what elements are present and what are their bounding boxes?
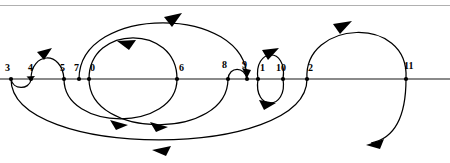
node-label-2: 2 — [308, 63, 313, 73]
arc-3-to-4-below — [11, 79, 31, 87]
node-dot-6 — [175, 77, 179, 81]
node-label-7: 7 — [74, 63, 79, 73]
arc-2-to-11-above — [307, 32, 406, 79]
arc-7-to-9-above — [79, 23, 247, 79]
node-dot-9 — [245, 77, 249, 81]
arrowhead-arc-6-to-0-above — [117, 40, 136, 50]
arrowhead-arc-2-to-11-above — [333, 21, 352, 34]
node-label-0: 0 — [90, 63, 95, 73]
node-label-5: 5 — [60, 63, 65, 73]
arrowhead-arc-10-to-1-below — [259, 100, 276, 110]
node-dot-2 — [305, 77, 309, 81]
node-label-4: 4 — [28, 63, 33, 73]
node-dot-7 — [77, 77, 81, 81]
arrowhead-arc-7-to-9-above — [164, 13, 182, 27]
arrowhead-arc-0-to-8-below — [150, 122, 168, 132]
arrowhead-arc-5-to-6-below — [110, 120, 128, 130]
node-label-1: 1 — [260, 63, 265, 73]
arc-layer — [11, 13, 406, 156]
node-label-3: 3 — [5, 63, 10, 73]
node-label-9: 9 — [242, 60, 247, 70]
node-dot-10 — [281, 77, 285, 81]
node-label-8: 8 — [222, 60, 227, 70]
arrowhead-arc-2-to-3-below — [152, 146, 171, 156]
arrowhead-arc-1-to-10-above — [262, 48, 279, 60]
node-dot-3 — [9, 77, 13, 81]
arc-5-to-6-below — [64, 79, 177, 119]
node-dot-11 — [404, 77, 408, 81]
node-dot-4 — [29, 77, 33, 81]
arc-10-to-1-below — [258, 79, 284, 103]
node-label-11: 11 — [404, 61, 413, 71]
arc-diagram-svg — [0, 0, 450, 163]
node-dot-8 — [226, 77, 230, 81]
arrowhead-arc-11-dangling — [366, 139, 384, 149]
node-label-6: 6 — [179, 63, 184, 73]
arc-diagram-canvas: 3 4 5 7 0 6 8 9 1 10 2 11 — [0, 0, 450, 163]
arc-11-dangling — [371, 79, 406, 143]
node-label-10: 10 — [276, 63, 286, 73]
node-dot-1 — [256, 77, 260, 81]
node-dot-0 — [87, 77, 91, 81]
node-dot-5 — [62, 77, 66, 81]
